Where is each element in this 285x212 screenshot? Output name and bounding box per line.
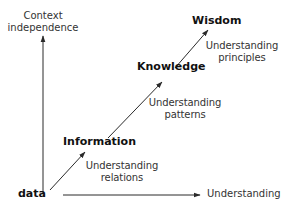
transition-patterns-line1: Understanding xyxy=(145,97,225,109)
y-axis-label-line1: Context xyxy=(6,10,80,22)
stage-information: Information xyxy=(63,136,136,149)
transition-relations-line2: relations xyxy=(82,172,162,184)
arrow-data-to-information xyxy=(50,152,85,190)
x-axis-label: Understanding xyxy=(207,188,281,200)
transition-principles: Understanding principles xyxy=(202,40,282,63)
transition-patterns: Understanding patterns xyxy=(145,97,225,120)
y-axis-label-line2: independence xyxy=(6,22,80,34)
stage-knowledge: Knowledge xyxy=(137,61,206,74)
transition-relations-line1: Understanding xyxy=(82,160,162,172)
transition-principles-line2: principles xyxy=(202,52,282,64)
transition-principles-line1: Understanding xyxy=(202,40,282,52)
dikw-diagram: Context independence Understanding data … xyxy=(0,0,285,212)
transition-patterns-line2: patterns xyxy=(145,109,225,121)
stage-wisdom: Wisdom xyxy=(192,15,241,28)
stage-data: data xyxy=(18,188,46,201)
y-axis-label: Context independence xyxy=(6,10,80,33)
transition-relations: Understanding relations xyxy=(82,160,162,183)
